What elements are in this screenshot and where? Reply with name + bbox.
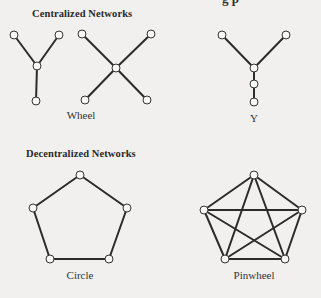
network-node (200, 206, 208, 214)
wheel-label: Wheel (67, 109, 96, 121)
network-node (281, 255, 289, 263)
network-edge (225, 210, 302, 259)
network-node (55, 31, 63, 39)
network-edge (225, 175, 254, 259)
network-edge (14, 35, 37, 66)
network-circle (29, 171, 131, 263)
network-edge (80, 175, 127, 208)
network-edge (82, 34, 116, 68)
network-node (250, 171, 258, 179)
network-edge (254, 35, 286, 68)
network-node (123, 204, 131, 212)
network-node (81, 96, 89, 104)
network-node (147, 30, 155, 38)
network-edge (222, 35, 254, 68)
network-node (46, 255, 54, 263)
network-edge (204, 175, 254, 210)
network-edge (116, 34, 151, 68)
network-y (218, 31, 290, 106)
circle-label: Circle (67, 269, 94, 281)
network-node (112, 64, 120, 72)
network-diagrams (0, 0, 321, 298)
y-label: Y (250, 112, 258, 124)
network-edge (85, 68, 116, 100)
network-node (32, 97, 40, 105)
network-edge (33, 208, 50, 259)
network-edge (36, 66, 37, 101)
network-edge (37, 35, 59, 66)
network-edge (33, 175, 80, 208)
network-node (29, 204, 37, 212)
network-node (221, 255, 229, 263)
network-node (250, 80, 258, 88)
network-node (250, 98, 258, 106)
network-pinwheel (200, 171, 306, 263)
network-edge (254, 175, 285, 259)
network-node (33, 62, 41, 70)
network-node (298, 206, 306, 214)
network-node (76, 171, 84, 179)
network-node (250, 64, 258, 72)
network-edge (204, 210, 285, 259)
network-node (282, 31, 290, 39)
network-node (10, 31, 18, 39)
network-wheel (10, 30, 155, 105)
network-edge (116, 68, 147, 100)
network-edge (285, 210, 302, 259)
network-node (218, 31, 226, 39)
network-node (105, 255, 113, 263)
network-node (78, 30, 86, 38)
pinwheel-label: Pinwheel (234, 269, 275, 281)
network-edge (109, 208, 127, 259)
network-node (143, 96, 151, 104)
